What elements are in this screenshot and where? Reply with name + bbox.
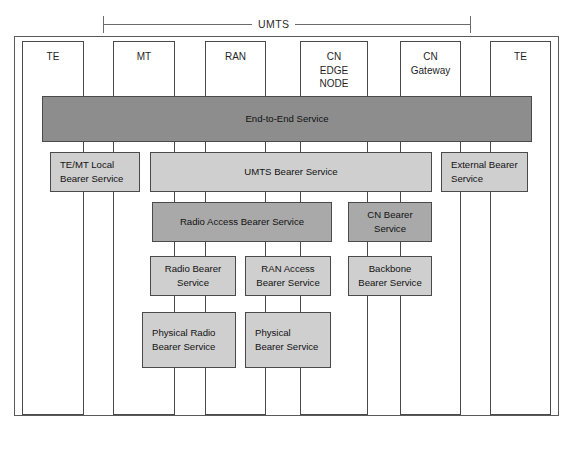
- block-label-physical-radio-bearer-service: Physical Radio Bearer Service: [143, 326, 219, 354]
- block-backbone-bearer-service: Backbone Bearer Service: [348, 256, 432, 296]
- block-label-cn-bearer-service: CN Bearer Service: [363, 208, 416, 236]
- column-label-cn-gateway: CN Gateway: [401, 50, 460, 77]
- block-label-end-to-end-service: End-to-End Service: [241, 112, 332, 126]
- block-radio-access-bearer-service: Radio Access Bearer Service: [152, 202, 332, 242]
- block-cn-bearer-service: CN Bearer Service: [348, 202, 432, 242]
- block-label-external-bearer-service: External Bearer Service: [442, 158, 522, 186]
- column-label-cn-edge-node: CN EDGE NODE: [301, 50, 367, 91]
- bracket-tick-left: [103, 16, 104, 33]
- bracket-tick-right: [470, 16, 471, 33]
- block-label-physical-bearer-service: Physical Bearer Service: [246, 326, 322, 354]
- block-ran-access-bearer-service: RAN Access Bearer Service: [245, 256, 331, 296]
- column-label-te-right: TE: [491, 50, 550, 64]
- block-te-mt-local-bearer-service: TE/MT Local Bearer Service: [50, 152, 140, 192]
- column-label-te-left: TE: [23, 50, 83, 64]
- block-label-te-mt-local-bearer-service: TE/MT Local Bearer Service: [51, 158, 127, 186]
- block-physical-bearer-service: Physical Bearer Service: [245, 312, 331, 368]
- umts-qos-architecture-diagram: UMTS TE MT RAN CN EDGE NODE CN Gateway T…: [0, 0, 571, 460]
- block-physical-radio-bearer-service: Physical Radio Bearer Service: [142, 312, 236, 368]
- umts-span-label: UMTS: [252, 18, 295, 30]
- block-radio-bearer-service: Radio Bearer Service: [150, 256, 236, 296]
- block-label-umts-bearer-service: UMTS Bearer Service: [240, 165, 341, 179]
- block-end-to-end-service: End-to-End Service: [42, 96, 532, 142]
- column-label-mt: MT: [114, 50, 174, 64]
- block-umts-bearer-service: UMTS Bearer Service: [150, 152, 432, 192]
- block-label-ran-access-bearer-service: RAN Access Bearer Service: [252, 262, 323, 290]
- block-label-radio-bearer-service: Radio Bearer Service: [161, 262, 226, 290]
- column-label-ran: RAN: [206, 50, 265, 64]
- block-external-bearer-service: External Bearer Service: [441, 152, 528, 192]
- block-label-radio-access-bearer-service: Radio Access Bearer Service: [176, 215, 308, 229]
- block-label-backbone-bearer-service: Backbone Bearer Service: [354, 262, 425, 290]
